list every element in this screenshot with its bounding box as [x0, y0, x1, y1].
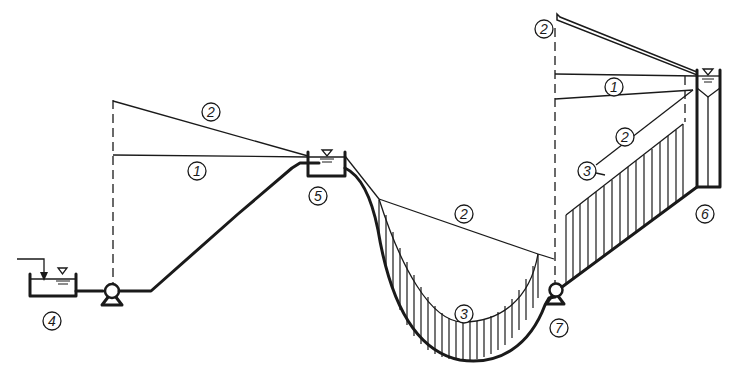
pump-icon	[105, 284, 119, 298]
label-5: 5	[309, 187, 327, 205]
svg-text:5: 5	[314, 188, 322, 204]
water-level-icon	[58, 268, 67, 274]
static-head-line-1	[113, 155, 308, 157]
label-4: 4	[43, 312, 61, 330]
suction-tank	[17, 259, 76, 296]
water-level-icon	[703, 69, 713, 75]
upper-reservoir	[697, 69, 720, 187]
water-level-icon	[322, 150, 332, 156]
label-3-valley: 3	[455, 305, 473, 323]
label-2-right: 2	[616, 128, 634, 146]
svg-text:1: 1	[193, 163, 201, 179]
svg-text:1: 1	[610, 79, 618, 95]
svg-text:2: 2	[620, 129, 629, 145]
svg-text:6: 6	[701, 206, 709, 222]
pump-icon	[550, 284, 563, 297]
label-1-right: 1	[605, 78, 623, 96]
pressure-region-rising	[566, 124, 683, 284]
label-3-right: 3	[578, 162, 596, 180]
svg-text:3: 3	[460, 306, 468, 322]
pressure-line-2c	[555, 90, 693, 99]
pressure-region-3	[379, 200, 538, 360]
label-7: 7	[550, 319, 568, 337]
svg-text:7: 7	[555, 320, 564, 336]
label-2-top-right: 2	[535, 20, 553, 38]
pressure-line-2b-drop	[345, 156, 379, 199]
svg-text:4: 4	[48, 313, 56, 329]
pipeline-diagram: 2 1 5 2 3 4 7 2 1 2 3 6	[0, 0, 738, 381]
svg-text:2: 2	[459, 206, 468, 222]
svg-text:2: 2	[539, 21, 548, 37]
energy-line-2	[557, 14, 697, 75]
label-2-top-left: 2	[202, 103, 220, 121]
label-2-valley: 2	[455, 205, 473, 223]
label-6: 6	[696, 205, 714, 223]
svg-text:2: 2	[206, 104, 215, 120]
static-head-line-1b	[555, 74, 697, 76]
pump-main	[102, 284, 122, 305]
delivery-pipe-1	[119, 163, 319, 291]
label-1-left: 1	[188, 162, 206, 180]
valley-pipe	[345, 168, 555, 361]
svg-text:3: 3	[583, 163, 591, 179]
